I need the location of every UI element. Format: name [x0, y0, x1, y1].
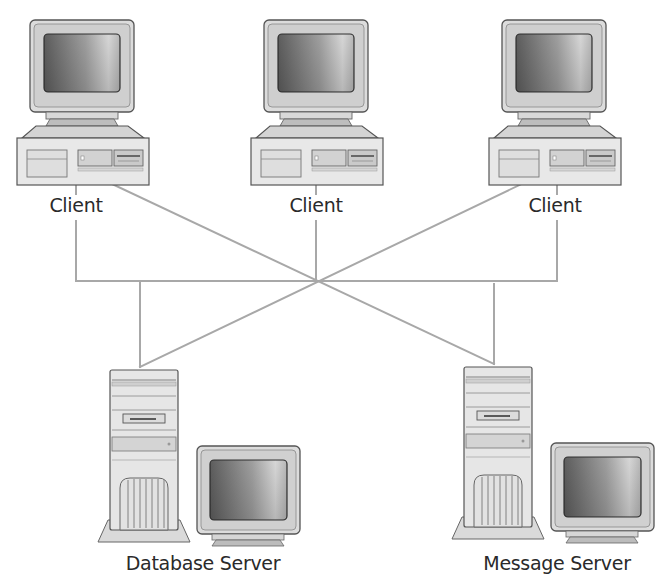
client-label-1: Client: [49, 194, 102, 216]
client-computer-3: [489, 20, 621, 185]
line-client1-to-message-server: [76, 167, 494, 364]
network-diagram: [0, 0, 667, 587]
client-label-3: Client: [528, 194, 581, 216]
client-computer-1: [17, 20, 149, 185]
client-computer-2: [251, 20, 383, 185]
client-label-2: Client: [289, 194, 342, 216]
database-server-label: Database Server: [126, 552, 281, 574]
message-server-icon: [452, 367, 654, 543]
database-server-icon: [98, 370, 300, 546]
message-server-label: Message Server: [483, 552, 630, 574]
